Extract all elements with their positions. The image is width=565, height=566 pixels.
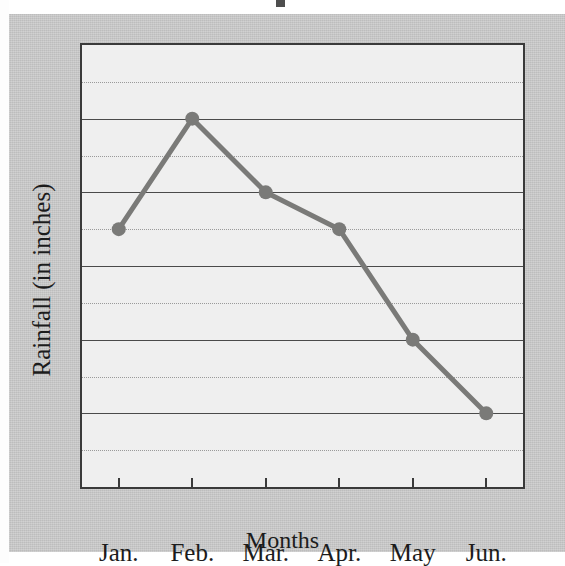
x-axis-title: Months [0,527,565,554]
x-axis-tick-mark [412,478,414,487]
x-axis-tick-mark [485,478,487,487]
gridline-major [82,119,523,120]
gridline-major [82,266,523,267]
gridline-minor [82,229,523,230]
gridline-minor [82,450,523,451]
gridline-major [82,192,523,193]
gridline-major [82,340,523,341]
gridline-minor [82,303,523,304]
scan-left-margin [0,0,9,563]
x-axis-tick-mark [265,478,267,487]
x-axis-tick-mark [191,478,193,487]
plot-area: Jan.: 3.5Feb.: 5Mar.: 4Apr.: 3.5May: 2Ju… [80,43,525,489]
x-axis-tick-mark [118,478,120,487]
gridline-minor [82,82,523,83]
x-axis-tick-mark [338,478,340,487]
cropped-title-remnant [276,0,285,7]
y-axis-title: Rainfall (in inches) [28,70,56,490]
gridline-major [82,413,523,414]
gridline-minor [82,156,523,157]
gridline-minor [82,377,523,378]
plot-inner-region [82,45,523,487]
